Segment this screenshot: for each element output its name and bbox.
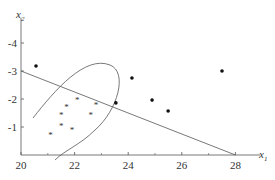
y-tick-label: -3 [8,65,18,77]
x-tick-label: 24 [123,159,135,171]
asterisk-point: * [70,125,75,135]
asterisk-point: * [64,102,69,112]
dot-point [220,69,224,73]
axes [21,18,260,155]
asterisk-point: * [94,100,99,110]
chart-container: 2022242628-1-2-3-4 x2 x1 ******** [0,0,275,180]
x-tick-label: 28 [230,159,242,171]
x-tick-label: 22 [69,159,80,171]
asterisk-point: * [59,121,64,131]
x-axis-label: x1 [258,148,267,163]
asterisk-point: * [88,110,93,120]
dot-point [34,64,38,68]
ellipse-boundary [33,63,119,160]
asterisk-point: * [75,95,80,105]
y-tick-label: -2 [8,93,17,105]
asterisk-point: * [48,130,53,140]
y-tick-label: -4 [8,37,18,49]
decision-line [21,71,235,155]
y-axis-label: x2 [15,8,25,23]
data-points: ******** [34,64,224,139]
dot-point [166,109,170,113]
x-tick-label: 20 [16,159,28,171]
x-tick-label: 26 [176,159,188,171]
y-tick-label: -1 [8,121,17,133]
dot-point [150,98,154,102]
dot-point [114,101,118,105]
dot-point [130,76,134,80]
scatter-chart: 2022242628-1-2-3-4 x2 x1 ******** [0,0,275,180]
asterisk-point: * [59,110,64,120]
ticks: 2022242628-1-2-3-4 [8,37,242,171]
